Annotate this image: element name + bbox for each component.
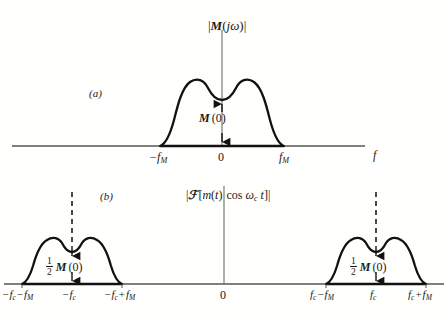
panel-b-right-peak-m: M	[360, 260, 371, 274]
panel-a-tick-label-neg-fm: −fM	[149, 151, 167, 165]
panel-b-tick-label-fc-plus-fm: fc+fM	[408, 289, 432, 302]
panel-b-right-peak-arg: (0)	[372, 260, 386, 274]
panel-b-title-bar-right: |	[268, 188, 270, 202]
tick-l0-a: −f	[2, 288, 12, 300]
tick-r2-op: +	[415, 288, 421, 300]
panel-b-right-peak-annotation: 12M(0)	[350, 256, 386, 277]
panel-a-peak-annotation: M(0)	[199, 112, 226, 124]
tick-l0-bsub: M	[27, 293, 33, 302]
panel-b-tick-label-neg-fc: −fc	[62, 289, 76, 302]
panel-b-title-m: m	[202, 188, 211, 202]
panel-b-title-paren-close: )	[218, 188, 222, 202]
tick-l1-a: −f	[62, 288, 72, 300]
panel-b-tag: (b)	[100, 191, 113, 202]
panel-b-tick-label-fc-minus-fm: fc−fM	[310, 289, 334, 302]
panel-a-tick-neg-fm-sub: M	[160, 156, 167, 165]
tick-r0-bsub: M	[328, 293, 334, 302]
script-f-icon: ℱ	[188, 188, 197, 202]
panel-b-tick-label-zero: 0	[220, 289, 226, 301]
panel-b-tick-label-neg-fc-plus-fm: −fc+fM	[104, 289, 135, 302]
panel-a-tick-label-pos-fm: fM	[279, 151, 289, 165]
panel-b-tick-label-neg-fc-minus-fm: −fc−fM	[2, 289, 33, 302]
tick-r0-asub: c	[313, 293, 316, 302]
one-half-fraction-left: 12	[46, 256, 53, 277]
tick-l1-asub: c	[72, 293, 75, 302]
tick-r1-asub: c	[373, 293, 376, 302]
frac-den-right: 2	[350, 267, 357, 277]
panel-b-left-peak-m: M	[56, 260, 67, 274]
tick-l2-op: +	[119, 288, 125, 300]
panel-b-title: |ℱ[m(t)cosωct]|	[186, 189, 270, 203]
omega-c-icon: ω	[245, 188, 253, 202]
panel-a-peak-arg: (0)	[212, 111, 226, 125]
panel-a-title-bar-right: |	[244, 18, 247, 33]
tick-l0-op: −	[17, 288, 23, 300]
figure-root: |M(jω)| (a) M(0) −fM 0 fM f |ℱ[m(t)cosωc…	[0, 0, 448, 315]
panel-a-tag: (a)	[89, 88, 102, 99]
panel-b-title-sub-c: c	[254, 194, 258, 203]
tick-l0-asub: c	[12, 293, 15, 302]
panel-b-title-cos: cos	[226, 188, 242, 202]
tick-l2-asub: c	[114, 293, 117, 302]
panel-b-left-peak-annotation: 12M(0)	[46, 256, 82, 277]
panel-a-tick-label-zero: 0	[218, 151, 224, 163]
panel-b-left-peak-arg: (0)	[68, 260, 82, 274]
tick-l2-a: −f	[104, 288, 114, 300]
panel-a-tick-pos-fm-sub: M	[282, 156, 289, 165]
panel-a-tick-neg-fm-main: −f	[149, 150, 160, 164]
tick-l2-bsub: M	[129, 293, 135, 302]
panel-b-tick-label-fc: fc	[370, 289, 376, 302]
panel-a-title: |M(jω)|	[208, 19, 246, 32]
tick-r0-op: −	[317, 288, 323, 300]
panel-a-peak-m: M	[199, 111, 210, 125]
frac-den-left: 2	[46, 267, 53, 277]
panel-a-x-axis-label: f	[373, 149, 376, 161]
tick-r2-bsub: M	[426, 293, 432, 302]
tick-r2-asub: c	[411, 293, 414, 302]
panel-a-title-m: M	[211, 18, 223, 33]
one-half-fraction-right: 12	[350, 256, 357, 277]
omega-icon: ω	[230, 18, 239, 33]
